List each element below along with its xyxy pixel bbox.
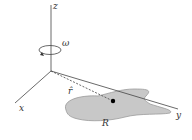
r-hat-label: r̂ xyxy=(68,86,73,96)
region-r xyxy=(65,89,170,121)
x-axis xyxy=(15,71,51,103)
point xyxy=(111,99,115,103)
x-axis-label: x xyxy=(19,103,24,113)
rotation-diagram: z ω x y r̂ R xyxy=(0,0,192,140)
omega-label: ω xyxy=(62,38,70,48)
y-axis-label: y xyxy=(175,110,182,120)
region-label: R xyxy=(101,118,109,128)
z-axis-label: z xyxy=(52,1,58,11)
